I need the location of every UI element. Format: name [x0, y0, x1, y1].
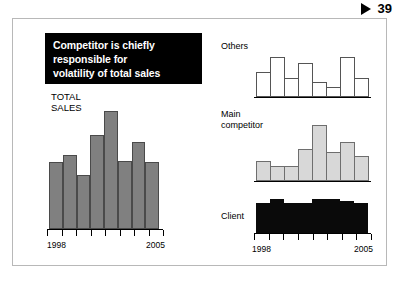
- chart-client-bars: [256, 199, 368, 233]
- bar: [354, 156, 369, 181]
- bar: [90, 135, 104, 229]
- bar: [77, 175, 91, 229]
- bar: [298, 63, 313, 97]
- chart-total-sales-title-line-1: TOTAL: [51, 91, 82, 102]
- chart-main-competitor-title-line-1: Main: [221, 109, 263, 120]
- axis-tick: [283, 234, 284, 240]
- bar: [312, 82, 327, 97]
- axis-tick: [313, 234, 314, 240]
- chart-client-xlabel-end: 2005: [354, 244, 373, 254]
- chart-main-competitor-bars: [256, 125, 368, 181]
- axis-tick: [105, 230, 106, 236]
- bar: [312, 125, 327, 181]
- slide-frame: Competitor is chiefly responsible for vo…: [12, 18, 387, 266]
- bar: [284, 166, 299, 181]
- chart-main-competitor: Main competitor: [218, 109, 378, 187]
- chart-total-sales-bars: [49, 111, 159, 229]
- chart-others-bars: [256, 57, 368, 97]
- bar: [270, 166, 285, 181]
- bar: [298, 149, 313, 181]
- axis-tick: [163, 230, 164, 236]
- axis-tick: [298, 234, 299, 240]
- axis-tick: [76, 230, 77, 236]
- axis-tick: [62, 230, 63, 236]
- chart-total-sales-xlabel-start: 1998: [47, 240, 66, 250]
- title-block: Competitor is chiefly responsible for vo…: [45, 33, 202, 84]
- chart-total-sales-title: TOTAL SALES: [51, 91, 82, 113]
- axis-tick: [254, 234, 255, 240]
- bar: [326, 87, 341, 97]
- bar: [256, 72, 271, 97]
- chart-client-xlabels: 1998 2005: [252, 244, 373, 254]
- bar: [270, 199, 284, 233]
- bar: [284, 78, 299, 97]
- axis-tick: [371, 234, 372, 240]
- bar: [284, 203, 298, 233]
- bar: [340, 57, 355, 97]
- chart-total-sales-xlabels: 1998 2005: [47, 240, 165, 250]
- bar: [270, 57, 285, 97]
- bar: [354, 203, 368, 233]
- chart-main-competitor-axis: [254, 181, 371, 182]
- bar: [256, 203, 270, 233]
- chart-client-xlabel-start: 1998: [252, 244, 271, 254]
- bar: [340, 142, 355, 181]
- chart-others: Others: [218, 41, 378, 103]
- axis-tick: [327, 234, 328, 240]
- bar: [312, 199, 326, 233]
- title-line-3: volatility of total sales: [53, 66, 194, 80]
- bar: [118, 161, 132, 229]
- chart-others-title: Others: [221, 41, 248, 52]
- axis-tick: [342, 234, 343, 240]
- bar: [354, 78, 369, 97]
- axis-tick: [134, 230, 135, 236]
- chart-total-sales-ticks: [47, 230, 163, 236]
- axis-tick: [47, 230, 48, 236]
- bar: [63, 155, 77, 229]
- chart-total-sales-xlabel-end: 2005: [146, 240, 165, 250]
- bar: [326, 199, 340, 233]
- bar: [49, 162, 63, 229]
- page-marker: 39: [361, 2, 392, 15]
- chart-client-ticks: [254, 234, 371, 240]
- chart-client: Client 1998 2005: [218, 197, 378, 255]
- page-number: 39: [378, 2, 392, 15]
- axis-tick: [91, 230, 92, 236]
- title-line-2: responsible for: [53, 52, 194, 66]
- title-line-1: Competitor is chiefly: [53, 38, 194, 52]
- bar: [104, 111, 118, 229]
- axis-tick: [120, 230, 121, 236]
- bar: [145, 162, 159, 229]
- bar: [298, 203, 312, 233]
- chart-client-title: Client: [221, 211, 244, 222]
- play-triangle-icon: [361, 3, 371, 15]
- axis-tick: [356, 234, 357, 240]
- bar: [340, 201, 354, 233]
- bar: [326, 152, 341, 181]
- chart-others-axis: [254, 97, 371, 98]
- bar: [256, 161, 271, 181]
- bar: [132, 142, 146, 229]
- chart-total-sales: TOTAL SALES 1998 2005: [31, 91, 171, 251]
- axis-tick: [269, 234, 270, 240]
- axis-tick: [149, 230, 150, 236]
